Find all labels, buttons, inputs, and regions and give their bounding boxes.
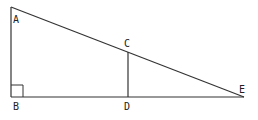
label-b: B [13, 101, 19, 112]
right-angle-marker [11, 85, 23, 97]
triangle-diagram: A B C D E [0, 0, 258, 120]
label-d: D [124, 101, 130, 112]
label-a: A [13, 14, 19, 25]
label-e: E [239, 84, 245, 95]
label-c: C [124, 38, 130, 49]
